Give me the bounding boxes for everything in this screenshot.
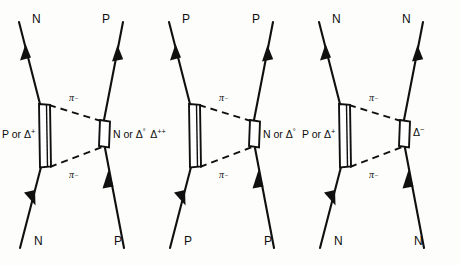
leg-label-bottom-right: N [414, 234, 423, 248]
pion-line-bottom [350, 147, 402, 167]
diagram-2: P P P P Δ++ N or Δ° π− π− [150, 12, 296, 248]
pion-line-top [349, 105, 401, 121]
pion-line-bottom [200, 147, 252, 167]
pion-label-bottom: π− [369, 169, 379, 180]
pion-label-top: π− [219, 92, 229, 103]
left-blob-label: P or Δ+ [2, 127, 36, 141]
diagram-1: N P N P P or Δ+ N or [2, 12, 146, 248]
leg-label-top-right: N [402, 12, 411, 26]
right-blob [249, 120, 260, 148]
leg-label-bottom-left: P [184, 234, 192, 248]
leg-top-right [404, 22, 423, 120]
leg-bottom-right [253, 148, 275, 248]
diagram-3: N N N N P or Δ+ Δ− π− π− [302, 12, 425, 248]
leg-top-right [104, 22, 123, 120]
pion-label-top: π− [69, 92, 79, 103]
leg-label-bottom-right: P [264, 234, 272, 248]
pion-label-top: π− [369, 92, 379, 103]
left-blob [339, 104, 351, 168]
right-blob-label: N or Δ° [263, 127, 296, 141]
left-blob-label: Δ++ [150, 127, 166, 141]
leg-label-bottom-left: N [334, 234, 343, 248]
leg-top-left [19, 22, 40, 104]
pion-line-bottom [50, 147, 102, 167]
leg-bottom-right [103, 148, 125, 248]
pion-label-bottom: π− [219, 169, 229, 180]
pion-line-top [199, 105, 251, 121]
feynman-diagram-figure: N P N P P or Δ+ N or [0, 0, 460, 265]
right-blob-label: Δ− [413, 125, 425, 139]
right-blob-label: N or Δ° [113, 127, 146, 141]
left-blob [39, 104, 51, 168]
leg-label-top-left: N [32, 12, 41, 26]
leg-bottom-right [403, 148, 425, 248]
leg-top-right [254, 22, 273, 120]
left-blob-label: P or Δ+ [302, 127, 336, 141]
pion-label-bottom: π− [69, 169, 79, 180]
leg-label-top-left: N [332, 12, 341, 26]
leg-label-bottom-right: P [114, 234, 122, 248]
right-blob [399, 120, 410, 148]
leg-label-top-left: P [182, 12, 190, 26]
leg-label-top-right: P [252, 12, 260, 26]
left-blob [189, 104, 201, 168]
leg-label-top-right: P [102, 12, 110, 26]
pion-line-top [49, 105, 101, 121]
leg-top-left [319, 22, 340, 104]
right-blob [99, 120, 110, 148]
leg-top-left [169, 22, 190, 104]
leg-label-bottom-left: N [34, 234, 43, 248]
